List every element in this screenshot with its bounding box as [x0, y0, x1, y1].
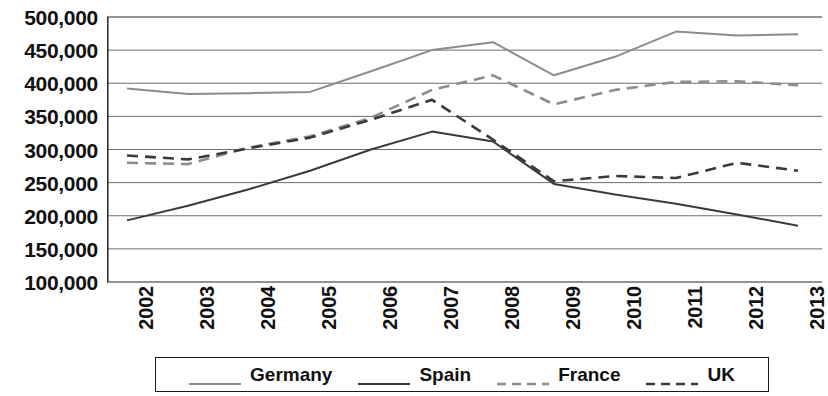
legend-label: France — [558, 365, 620, 384]
x-tick-label: 2008 — [502, 286, 522, 330]
series-line-germany — [127, 32, 798, 94]
x-tick-label: 2009 — [563, 286, 583, 330]
x-tick-label: 2010 — [624, 286, 644, 330]
legend-item-spain[interactable]: Spain — [358, 365, 471, 384]
legend-label: Spain — [419, 365, 471, 384]
x-tick-label: 2013 — [807, 286, 827, 330]
legend-item-uk[interactable]: UK — [646, 365, 734, 384]
legend-swatch-icon — [646, 373, 698, 376]
legend-swatch-icon — [189, 373, 241, 376]
x-tick-label: 2005 — [319, 286, 339, 330]
x-tick-label: 2002 — [136, 286, 156, 330]
chart-legend: GermanySpainFranceUK — [155, 357, 769, 392]
legend-label: UK — [707, 365, 734, 384]
x-tick-label: 2003 — [197, 286, 217, 330]
y-tick-label: 300,000 — [24, 139, 98, 160]
x-tick-label: 2012 — [746, 286, 766, 330]
y-tick-label: 400,000 — [24, 73, 98, 94]
x-tick-label: 2007 — [441, 286, 461, 330]
plot-area — [107, 0, 822, 292]
y-tick-label: 350,000 — [24, 106, 98, 127]
legend-item-germany[interactable]: Germany — [189, 365, 332, 384]
series-line-uk — [127, 100, 798, 182]
x-tick-label: 2011 — [685, 286, 705, 329]
y-tick-label: 500,000 — [24, 7, 98, 28]
y-tick-label: 100,000 — [24, 272, 98, 293]
plot-svg — [107, 0, 822, 292]
y-tick-label: 450,000 — [24, 40, 98, 61]
x-tick-label: 2004 — [258, 286, 278, 330]
series-line-spain — [127, 132, 798, 226]
x-tick-label: 2006 — [380, 286, 400, 330]
y-axis: 500,000450,000400,000350,000300,000250,0… — [0, 0, 104, 292]
y-tick-label: 250,000 — [24, 172, 98, 193]
x-axis: 2002200320042005200620072008200920102011… — [107, 286, 822, 356]
y-tick-label: 200,000 — [24, 205, 98, 226]
legend-swatch-icon — [497, 373, 549, 376]
y-tick-label: 150,000 — [24, 238, 98, 259]
legend-swatch-icon — [358, 373, 410, 376]
legend-item-france[interactable]: France — [497, 365, 620, 384]
legend-label: Germany — [250, 365, 332, 384]
